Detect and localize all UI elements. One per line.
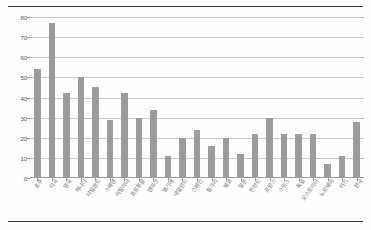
x-tick-label: 프랑스: [264, 179, 278, 194]
bar: [223, 138, 230, 178]
x-tick-label: 일본: [238, 179, 249, 190]
figure-bottom-rule: [8, 221, 363, 222]
bar: [107, 120, 114, 178]
x-axis-label-group: 호주미국영국캐나다아일랜드스웨덴이탈리아포르투갈덴마크벨기에네덜란드스페인헝가리…: [30, 179, 364, 227]
bar: [136, 118, 143, 178]
bar: [295, 134, 302, 178]
bar: [208, 146, 215, 178]
y-tick-label: 70: [21, 34, 27, 41]
x-tick-label: 핀란드: [249, 179, 263, 194]
plot-area: 01020304050607080: [30, 17, 364, 178]
bar: [92, 87, 99, 178]
x-tick-label: 호주: [34, 179, 45, 190]
bar: [49, 23, 56, 178]
x-tick-label: 포르투갈: [130, 179, 147, 198]
bar: [353, 122, 360, 178]
bar: [121, 93, 128, 178]
x-tick-label: 헝가리: [205, 179, 219, 194]
y-tick-label: 50: [21, 74, 27, 81]
y-tick-label: 0: [24, 175, 27, 182]
y-tick-label: 30: [21, 114, 27, 121]
bar: [281, 134, 288, 178]
bar: [266, 118, 273, 178]
bar: [165, 156, 172, 178]
bars-group: [30, 17, 364, 178]
x-tick-label: 한국: [354, 179, 365, 190]
x-tick-label: 덴마크: [147, 179, 161, 194]
y-tick-label: 80: [21, 14, 27, 21]
bar: [78, 77, 85, 178]
bar: [150, 110, 157, 178]
x-tick-label: 스위스: [278, 179, 292, 194]
bar: [310, 134, 317, 178]
y-tick-label: 60: [21, 54, 27, 61]
bar: [34, 69, 41, 178]
bar: [194, 130, 201, 178]
y-tick-label: 20: [21, 134, 27, 141]
x-tick-label: 스페인: [191, 179, 205, 194]
bar: [179, 138, 186, 178]
x-tick-label: 체코: [223, 179, 234, 190]
bar: [237, 154, 244, 178]
bar: [324, 164, 331, 178]
figure-top-rule: [8, 6, 363, 7]
x-tick-label: 터키: [339, 179, 350, 190]
y-tick-label: 10: [21, 154, 27, 161]
bar: [339, 156, 346, 178]
bar: [252, 134, 259, 178]
bar: [63, 93, 70, 178]
x-tick-label: 노르웨이: [319, 179, 336, 198]
x-tick-label: 독일: [296, 179, 307, 190]
chart-figure: 01020304050607080 호주미국영국캐나다아일랜드스웨덴이탈리아포르…: [0, 0, 371, 230]
x-tick-label: 영국: [63, 179, 74, 190]
x-tick-label: 미국: [49, 179, 60, 190]
y-tick-label: 40: [21, 94, 27, 101]
